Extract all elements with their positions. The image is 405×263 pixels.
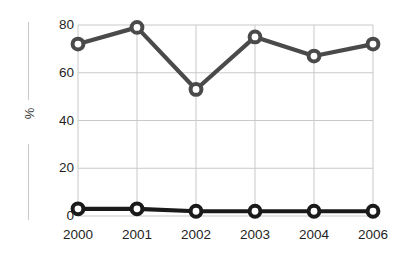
data-point-marker (250, 206, 261, 217)
data-point-marker (132, 22, 143, 33)
series-upper-series (73, 22, 379, 95)
data-point-marker (368, 206, 379, 217)
data-point-marker (368, 39, 379, 50)
series-line (78, 27, 373, 89)
data-point-marker (191, 84, 202, 95)
series-lower-series (73, 203, 379, 216)
line-chart: % 020406080 200020012002200320042006 (0, 0, 405, 263)
data-point-marker (132, 203, 143, 214)
series-layer (73, 22, 379, 217)
series-line (78, 209, 373, 211)
data-point-marker (309, 206, 320, 217)
plot-area (0, 0, 405, 263)
data-point-marker (73, 39, 84, 50)
data-point-marker (309, 51, 320, 62)
data-point-marker (191, 206, 202, 217)
data-point-marker (250, 32, 261, 43)
data-point-marker (73, 203, 84, 214)
